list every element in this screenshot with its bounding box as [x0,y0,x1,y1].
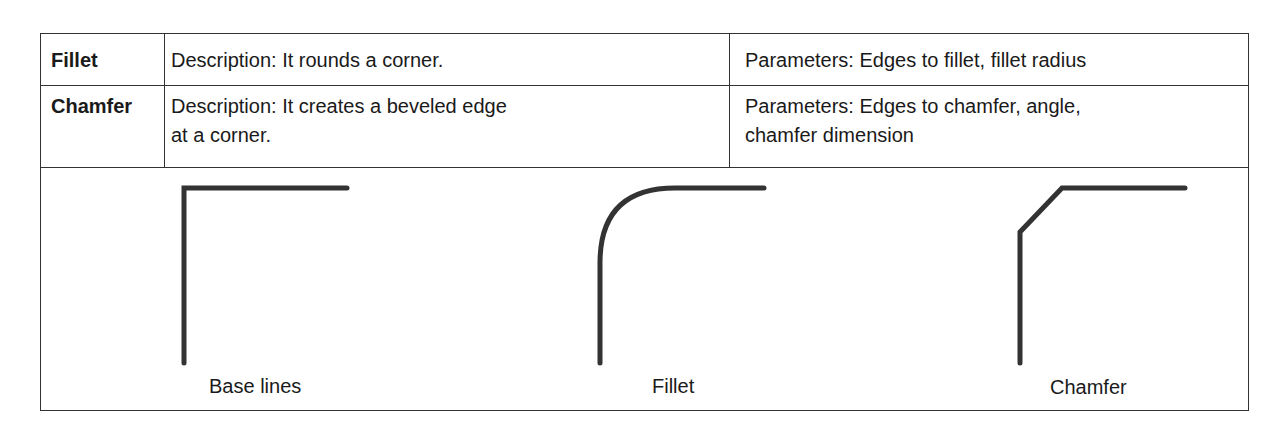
caption-fillet: Fillet [652,375,694,398]
feature-table: Fillet Description: It rounds a corner. … [40,33,1249,411]
corner-diagrams [41,168,1247,410]
feature-parameters: Parameters: Edges to chamfer, angle, cha… [730,86,1248,167]
description-line: Description: It creates a beveled edge [171,92,729,121]
caption-base-lines: Base lines [209,375,301,398]
table-row-chamfer: Chamfer Description: It creates a bevele… [41,86,1248,168]
chamfer-diagram [1020,188,1185,363]
fillet-diagram [600,188,764,363]
description-line: Description: It rounds a corner. [171,46,729,75]
base-lines-diagram [184,188,347,363]
caption-chamfer: Chamfer [1050,376,1127,399]
feature-name: Chamfer [41,86,165,167]
table-row-fillet: Fillet Description: It rounds a corner. … [41,34,1248,86]
feature-parameters: Parameters: Edges to fillet, fillet radi… [730,34,1248,85]
description-line: at a corner. [171,121,729,150]
figures-row: Base lines Fillet Chamfer [41,168,1248,410]
parameters-line: chamfer dimension [745,121,1248,150]
parameters-line: Parameters: Edges to fillet, fillet radi… [745,46,1248,75]
feature-name: Fillet [41,34,165,85]
parameters-line: Parameters: Edges to chamfer, angle, [745,92,1248,121]
feature-description: Description: It rounds a corner. [165,34,730,85]
feature-description: Description: It creates a beveled edge a… [165,86,730,167]
